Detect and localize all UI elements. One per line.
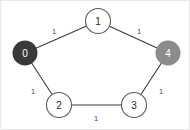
edge-label-0-1: 1 xyxy=(52,27,56,36)
graph-node-0[interactable]: 0 xyxy=(13,41,38,66)
graph-node-1[interactable]: 1 xyxy=(86,9,111,34)
edge-label-0-2: 1 xyxy=(31,87,35,96)
node-1-circle[interactable] xyxy=(86,9,111,34)
graph-node-4[interactable]: 4 xyxy=(156,41,181,66)
node-2-circle[interactable] xyxy=(47,93,72,118)
graph-node-2[interactable]: 2 xyxy=(47,93,72,118)
edge-label-2-3: 1 xyxy=(94,114,98,123)
node-4-circle[interactable] xyxy=(156,41,181,66)
edge-label-1-4: 1 xyxy=(137,27,141,36)
node-3-circle[interactable] xyxy=(122,93,147,118)
graph-figure: 1 1 1 1 1 0 1 2 3 xyxy=(0,0,190,130)
node-group: 0 1 2 3 4 xyxy=(13,9,181,118)
edge-label-3-4: 1 xyxy=(159,87,163,96)
graph-canvas: 1 1 1 1 1 0 1 2 3 xyxy=(1,1,190,130)
graph-node-3[interactable]: 3 xyxy=(122,93,147,118)
node-0-circle[interactable] xyxy=(13,41,38,66)
